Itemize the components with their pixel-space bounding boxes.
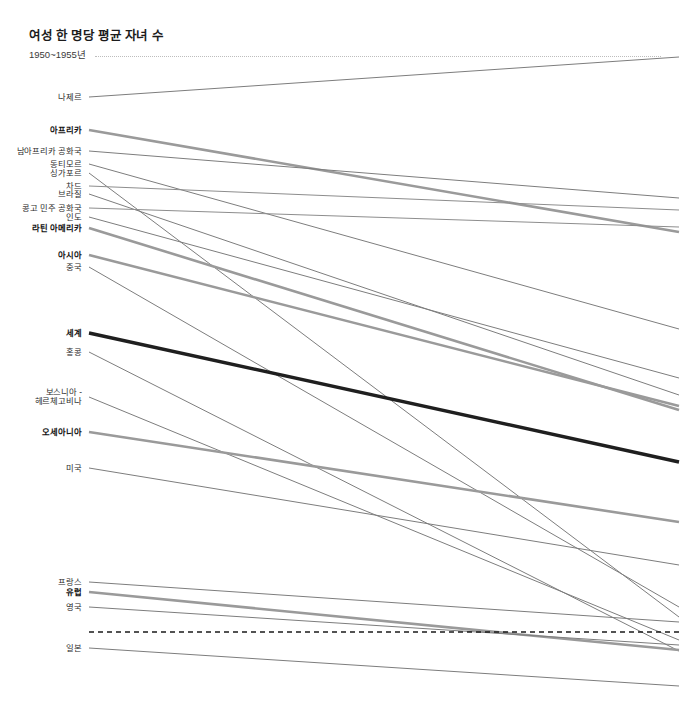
series-line[interactable] xyxy=(89,333,679,462)
series-line[interactable] xyxy=(89,186,679,210)
series-line[interactable] xyxy=(89,397,679,640)
series-line[interactable] xyxy=(89,164,679,329)
series-line[interactable] xyxy=(89,592,679,650)
series-line[interactable] xyxy=(89,468,679,565)
series-line[interactable] xyxy=(89,607,679,645)
series-lines-group xyxy=(89,57,679,686)
slopegraph-chart: 여성 한 명당 평균 자녀 수 1950~1955년 나제르아프리카남아프리카 … xyxy=(0,0,684,718)
series-line[interactable] xyxy=(89,648,679,686)
series-line[interactable] xyxy=(89,130,679,232)
series-line[interactable] xyxy=(89,151,679,198)
series-line[interactable] xyxy=(89,432,679,522)
series-line[interactable] xyxy=(89,255,679,406)
series-line[interactable] xyxy=(89,57,679,97)
slopegraph-plot-area xyxy=(0,0,684,718)
